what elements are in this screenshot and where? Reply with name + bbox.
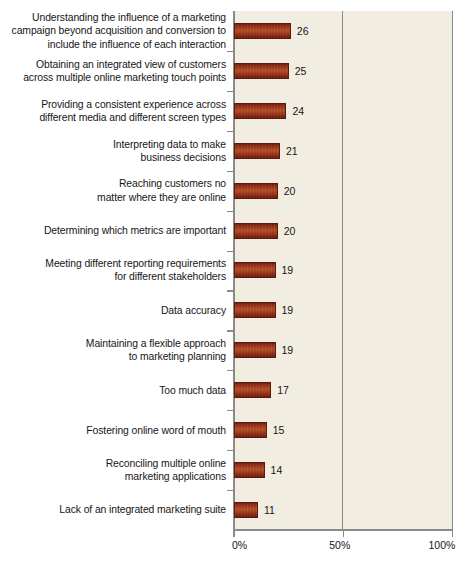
category-label: Maintaining a flexible approachto market… (4, 330, 226, 370)
category-label: Reaching customers nomatter where they a… (4, 171, 226, 211)
x-axis-tick (343, 530, 344, 537)
y-axis-tick (227, 51, 234, 52)
bar-row: Providing a consistent experience across… (0, 91, 469, 131)
bar-row: Understanding the influence of a marketi… (0, 11, 469, 51)
bar-wrapper: 19 (234, 290, 469, 330)
category-label-line: business decisions (141, 151, 226, 164)
y-axis-tick (227, 171, 234, 172)
category-label-line: Reaching customers no (119, 177, 226, 190)
bar-value-label: 17 (277, 384, 289, 396)
category-label-line: Too much data (159, 384, 226, 397)
bar (234, 223, 278, 239)
bar-row: Obtaining an integrated view of customer… (0, 51, 469, 91)
category-label-line: matter where they are online (97, 191, 226, 204)
bar (234, 502, 258, 518)
category-label-line: Reconciling multiple online (106, 457, 226, 470)
category-label-line: Data accuracy (161, 304, 226, 317)
bar (234, 143, 280, 159)
category-label-line: Understanding the influence of a marketi… (32, 11, 226, 24)
category-label: Too much data (4, 370, 226, 410)
category-label-line: Fostering online word of mouth (86, 424, 226, 437)
bar-wrapper: 21 (234, 131, 469, 171)
y-axis-tick (227, 450, 234, 451)
category-label: Fostering online word of mouth (4, 410, 226, 450)
x-axis-tick-label: 100% (429, 539, 456, 551)
category-label: Determining which metrics are important (4, 211, 226, 251)
category-label-line: to marketing planning (129, 350, 226, 363)
bar-wrapper: 26 (234, 11, 469, 51)
y-axis-tick (227, 330, 234, 331)
bar-wrapper: 17 (234, 370, 469, 410)
category-label: Reconciling multiple onlinemarketing app… (4, 450, 226, 490)
bar-value-label: 20 (284, 185, 296, 197)
x-axis-tick (233, 530, 234, 537)
bar (234, 462, 265, 478)
bar-wrapper: 20 (234, 171, 469, 211)
bar-wrapper: 19 (234, 251, 469, 291)
bar-row: Data accuracy19 (0, 290, 469, 330)
bar (234, 422, 267, 438)
bar-row: Too much data17 (0, 370, 469, 410)
x-axis-tick-label: 0% (232, 539, 247, 551)
bar (234, 262, 276, 278)
bar-value-label: 24 (292, 105, 304, 117)
category-label-line: Lack of an integrated marketing suite (59, 503, 226, 516)
bar-row: Reconciling multiple onlinemarketing app… (0, 450, 469, 490)
category-label: Providing a consistent experience across… (4, 91, 226, 131)
bar-row: Reaching customers nomatter where they a… (0, 171, 469, 211)
category-label-line: Determining which metrics are important (44, 224, 226, 237)
bar-value-label: 19 (282, 264, 294, 276)
bar-row: Determining which metrics are important2… (0, 211, 469, 251)
y-axis-tick (227, 91, 234, 92)
bar-wrapper: 19 (234, 330, 469, 370)
category-label-line: for different stakeholders (114, 270, 226, 283)
y-axis-tick (227, 370, 234, 371)
bar-row: Maintaining a flexible approachto market… (0, 330, 469, 370)
bar-value-label: 19 (282, 344, 294, 356)
bar-wrapper: 11 (234, 490, 469, 530)
bar-row: Interpreting data to makebusiness decisi… (0, 131, 469, 171)
bar-wrapper: 24 (234, 91, 469, 131)
y-axis-tick (227, 290, 234, 291)
bar-value-label: 20 (284, 225, 296, 237)
bar-value-label: 25 (295, 65, 307, 77)
category-label-line: Obtaining an integrated view of customer… (36, 58, 226, 71)
category-label-line: Providing a consistent experience across (41, 98, 226, 111)
x-axis-tick (452, 530, 453, 537)
bar-value-label: 14 (271, 464, 283, 476)
category-label-line: marketing applications (125, 470, 226, 483)
bar-wrapper: 20 (234, 211, 469, 251)
bar-row: Fostering online word of mouth15 (0, 410, 469, 450)
y-axis-tick (227, 251, 234, 252)
category-label-line: across multiple online marketing touch p… (23, 71, 226, 84)
bar-chart: Understanding the influence of a marketi… (0, 0, 469, 561)
category-label: Interpreting data to makebusiness decisi… (4, 131, 226, 171)
bar-wrapper: 25 (234, 51, 469, 91)
bar-value-label: 19 (282, 304, 294, 316)
bar (234, 103, 286, 119)
bar-row: Meeting different reporting requirements… (0, 251, 469, 291)
bar (234, 23, 291, 39)
category-label-line: different media and different screen typ… (39, 111, 226, 124)
bar-row: Lack of an integrated marketing suite11 (0, 490, 469, 530)
category-label: Understanding the influence of a marketi… (4, 11, 226, 51)
category-label-line: Meeting different reporting requirements (45, 257, 226, 270)
category-label: Data accuracy (4, 290, 226, 330)
bar-value-label: 11 (264, 504, 275, 516)
bar-value-label: 15 (273, 424, 285, 436)
category-label-line: include the influence of each interactio… (48, 38, 226, 51)
bar-value-label: 21 (286, 145, 298, 157)
bar-wrapper: 14 (234, 450, 469, 490)
y-axis-tick (227, 410, 234, 411)
bar (234, 382, 271, 398)
category-label: Meeting different reporting requirements… (4, 251, 226, 291)
bar (234, 183, 278, 199)
x-axis-tick-label: 50% (329, 539, 350, 551)
category-label-line: Interpreting data to make (113, 138, 226, 151)
bar (234, 342, 276, 358)
category-label: Obtaining an integrated view of customer… (4, 51, 226, 91)
bar (234, 63, 289, 79)
category-label-line: Maintaining a flexible approach (86, 337, 226, 350)
y-axis-tick (227, 490, 234, 491)
category-label: Lack of an integrated marketing suite (4, 490, 226, 530)
